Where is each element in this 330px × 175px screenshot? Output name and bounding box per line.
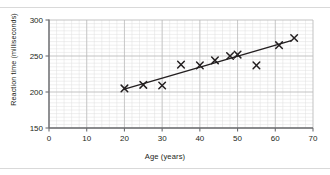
y-tick-label: 300 (30, 16, 44, 25)
y-axis-label: Reaction time (milliseconds) (9, 0, 18, 125)
x-tick-label: 40 (195, 134, 204, 143)
x-tick-label: 70 (309, 134, 318, 143)
page-rule-bottom (0, 168, 330, 169)
x-axis-label: Age (years) (0, 152, 330, 161)
x-tick-label: 10 (82, 134, 91, 143)
x-tick-label: 0 (47, 134, 52, 143)
x-tick-label: 50 (233, 134, 242, 143)
scatter-plot-figure: Reaction time (milliseconds) Age (years)… (0, 0, 330, 175)
x-tick-label: 60 (271, 134, 280, 143)
page-rule-top (0, 7, 330, 8)
y-tick-label: 250 (30, 52, 44, 61)
axis-tick-labels: 010203040506070150200250300 (30, 16, 318, 143)
x-tick-label: 30 (158, 134, 167, 143)
grid-minor (49, 20, 313, 128)
axis-ticks (46, 20, 314, 132)
y-tick-label: 200 (30, 88, 44, 97)
plot-canvas: 010203040506070150200250300 (0, 0, 330, 175)
x-tick-label: 20 (120, 134, 129, 143)
y-tick-label: 150 (30, 124, 44, 133)
